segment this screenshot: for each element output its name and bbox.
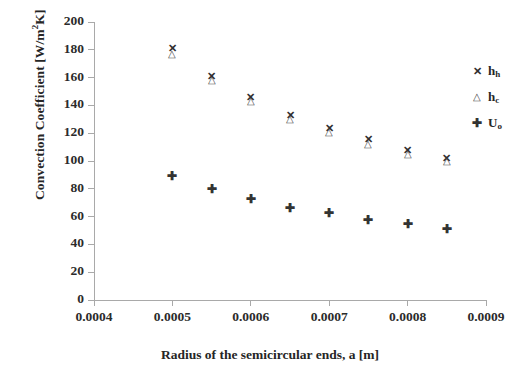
cross-marker-icon: ✕: [470, 63, 484, 79]
y-tick-label: 40: [42, 235, 84, 251]
triangle-marker-icon: △: [470, 89, 484, 105]
triangle-marker-icon: △: [208, 75, 216, 85]
cross-marker-icon: ✕: [364, 133, 373, 144]
y-tick-mark: [88, 161, 94, 162]
x-tick-mark: [94, 300, 95, 306]
legend-item[interactable]: ✕hh: [462, 63, 530, 79]
plus-marker-icon: ✚: [246, 193, 256, 205]
plus-marker-icon: ✚: [324, 207, 334, 219]
x-tick-mark: [172, 300, 173, 306]
legend-label: hc: [488, 89, 499, 106]
x-axis-line: [94, 300, 486, 301]
plus-marker-icon: ✚: [403, 218, 413, 230]
triangle-marker-icon: △: [286, 114, 294, 124]
y-tick-label: 20: [42, 263, 84, 279]
cross-marker-icon: ✕: [246, 92, 255, 103]
x-tick-mark: [486, 300, 487, 306]
y-tick-label: 180: [42, 41, 84, 57]
plus-marker-icon: ✚: [470, 115, 484, 131]
scatter-chart: Convection Coefficient [W/m2K] 020406080…: [0, 0, 530, 381]
x-tick-label: 0.0004: [49, 309, 139, 325]
y-tick-mark: [88, 133, 94, 134]
y-tick-mark: [88, 244, 94, 245]
y-tick-label: 80: [42, 180, 84, 196]
legend-item[interactable]: ✚Uo: [462, 115, 530, 131]
x-tick-mark: [250, 300, 251, 306]
cross-marker-icon: ✕: [286, 110, 295, 121]
y-axis-title: Convection Coefficient [W/m2K]: [30, 0, 48, 240]
y-axis-line: [94, 22, 95, 301]
y-tick-label: 140: [42, 96, 84, 112]
x-tick-mark: [407, 300, 408, 306]
plus-marker-icon: ✚: [442, 223, 452, 235]
plus-marker-icon: ✚: [285, 202, 295, 214]
cross-marker-icon: ✕: [325, 122, 334, 133]
y-tick-mark: [88, 216, 94, 217]
x-tick-label: 0.0009: [441, 309, 530, 325]
x-tick-label: 0.0005: [127, 309, 217, 325]
plus-marker-icon: ✚: [207, 183, 217, 195]
y-tick-label: 100: [42, 152, 84, 168]
triangle-marker-icon: △: [168, 49, 176, 59]
legend-label: hh: [488, 63, 500, 80]
cross-marker-icon: ✕: [168, 43, 177, 54]
y-tick-label: 0: [42, 291, 84, 307]
x-tick-mark: [329, 300, 330, 306]
triangle-marker-icon: △: [443, 156, 451, 166]
y-tick-label: 120: [42, 124, 84, 140]
plus-marker-icon: ✚: [363, 214, 373, 226]
x-tick-label: 0.0007: [284, 309, 374, 325]
plus-marker-icon: ✚: [167, 170, 177, 182]
y-tick-mark: [88, 49, 94, 50]
x-axis-title: Radius of the semicircular ends, a [m]: [60, 347, 480, 363]
triangle-marker-icon: △: [364, 139, 372, 149]
y-tick-mark: [88, 77, 94, 78]
x-tick-label: 0.0008: [363, 309, 453, 325]
y-tick-mark: [88, 272, 94, 273]
cross-marker-icon: ✕: [207, 71, 216, 82]
y-tick-label: 60: [42, 208, 84, 224]
x-tick-label: 0.0006: [206, 309, 296, 325]
y-tick-mark: [88, 22, 94, 23]
y-tick-mark: [88, 188, 94, 189]
legend-item[interactable]: △hc: [462, 89, 530, 105]
y-tick-label: 200: [42, 13, 84, 29]
cross-marker-icon: ✕: [442, 153, 451, 164]
y-tick-mark: [88, 105, 94, 106]
triangle-marker-icon: △: [404, 149, 412, 159]
triangle-marker-icon: △: [247, 96, 255, 106]
legend-label: Uo: [488, 115, 502, 132]
y-tick-label: 160: [42, 69, 84, 85]
y-axis-title-superscript: 2: [30, 25, 40, 30]
triangle-marker-icon: △: [325, 127, 333, 137]
cross-marker-icon: ✕: [403, 144, 412, 155]
